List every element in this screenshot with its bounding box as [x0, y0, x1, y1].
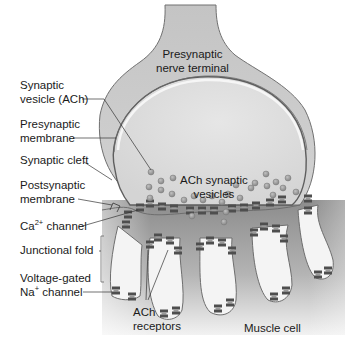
neuromuscular-junction-diagram: Presynapticnerve terminal Synapticvesicl…: [0, 0, 353, 355]
label-ach-synaptic-vesicles: ACh synapticvesicles: [180, 174, 248, 201]
label-presynaptic-nerve-terminal: Presynapticnerve terminal: [156, 48, 229, 75]
label-muscle-cell: Muscle cell: [244, 322, 301, 336]
label-ach-receptors: AChreceptors: [133, 306, 181, 333]
label-synaptic-vesicle: Synapticvesicle (ACh): [20, 79, 88, 106]
label-synaptic-cleft: Synaptic cleft: [20, 154, 88, 168]
label-voltage-gated-na-channel: Voltage-gatedNa+ channel: [20, 272, 91, 299]
label-junctional-fold: Junctional fold: [20, 244, 94, 258]
label-ca-channel: Ca2+ channel: [20, 220, 87, 234]
label-presynaptic-membrane: Presynapticmembrane: [20, 118, 80, 145]
label-postsynaptic-membrane: Postsynapticmembrane: [20, 179, 85, 206]
